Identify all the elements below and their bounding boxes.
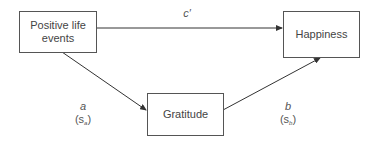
node-positive-life-events: Positive life events xyxy=(19,11,97,53)
coef-a: a xyxy=(70,100,96,113)
coef-b: b xyxy=(275,100,301,113)
coef-b-group: b (sb) xyxy=(275,100,301,130)
coef-c-prime: c′ xyxy=(180,7,194,20)
coef-a-group: a (sa) xyxy=(70,100,96,130)
node-x-label-line1: Positive life xyxy=(30,19,86,32)
node-happiness: Happiness xyxy=(283,11,360,58)
node-x-label-line2: events xyxy=(30,32,86,45)
node-m-label: Gratitude xyxy=(163,108,208,121)
node-y-label: Happiness xyxy=(296,28,348,41)
se-b: (sb) xyxy=(275,113,301,130)
arrow-b xyxy=(223,58,320,110)
se-a: (sa) xyxy=(70,113,96,130)
node-gratitude: Gratitude xyxy=(147,93,224,136)
